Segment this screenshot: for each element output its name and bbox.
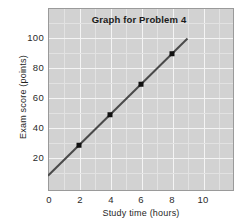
gridline-vertical-5 bbox=[204, 9, 205, 190]
x-tick-label: 8 bbox=[160, 194, 184, 205]
chart-screenshot: Graph for Problem 4 100 80 60 40 20 0 2 … bbox=[0, 0, 247, 224]
gridline-horizontal-minor bbox=[49, 143, 233, 144]
x-tick-label: 2 bbox=[68, 194, 92, 205]
x-tick-label: 10 bbox=[191, 194, 215, 205]
gridline-vertical-minor bbox=[95, 9, 96, 190]
gridline-horizontal-minor bbox=[49, 83, 233, 84]
gridline-horizontal-minor bbox=[49, 173, 233, 174]
gridline-horizontal-minor bbox=[49, 53, 233, 54]
gridline-horizontal-3 bbox=[49, 98, 233, 99]
x-tick-label: 0 bbox=[37, 194, 61, 205]
x-axis-tick-labels: 0 2 4 6 8 10 bbox=[0, 194, 247, 208]
y-axis-title: Exam score (points) bbox=[18, 22, 28, 172]
gridline-horizontal-4 bbox=[49, 68, 233, 69]
gridline-vertical-minor bbox=[64, 9, 65, 190]
gridline-vertical-4 bbox=[173, 9, 174, 190]
x-tick-label: 6 bbox=[129, 194, 153, 205]
gridline-horizontal-minor bbox=[49, 113, 233, 114]
gridline-vertical-3 bbox=[142, 9, 143, 190]
plot-area bbox=[48, 8, 234, 191]
x-axis-title: Study time (hours) bbox=[48, 208, 234, 218]
x-tick-label: 4 bbox=[99, 194, 123, 205]
gridline-horizontal-5 bbox=[49, 38, 233, 39]
gridline-horizontal-2 bbox=[49, 128, 233, 129]
gridline-vertical-minor bbox=[219, 9, 220, 190]
gridline-horizontal-1 bbox=[49, 158, 233, 159]
chart-title: Graph for Problem 4 bbox=[74, 14, 204, 25]
gridline-vertical-2 bbox=[111, 9, 112, 190]
gridline-vertical-minor bbox=[126, 9, 127, 190]
gridline-vertical-minor bbox=[188, 9, 189, 190]
gridline-vertical-1 bbox=[80, 9, 81, 190]
gridline-vertical-minor bbox=[157, 9, 158, 190]
